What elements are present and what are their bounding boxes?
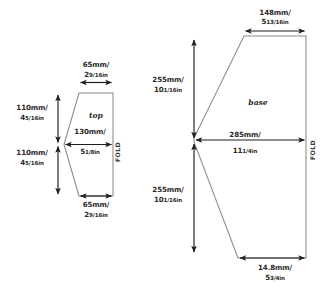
dim-top-mid-width-inch: 51/8in xyxy=(80,147,100,156)
dim-top-upper-left-inch: 45/16in xyxy=(20,113,44,122)
fold-label-top: FOLD xyxy=(114,142,121,162)
dim-base-mid-width-mm: 285mm/ xyxy=(229,130,261,139)
dim-top-top-width-inch: 29/16in xyxy=(84,70,108,79)
dim-base-mid-width-inch: 111/4in xyxy=(233,146,258,155)
dim-top-upper-left-mm: 110mm/ xyxy=(16,103,48,112)
dim-top-lower-left-inch: 45/16in xyxy=(20,158,44,167)
piece-base-outline xyxy=(194,36,306,258)
dim-top-bottom-width-inch: 29/16in xyxy=(84,210,108,219)
dim-top-lower-left-mm: 110mm/ xyxy=(16,148,48,157)
dim-top-mid-width-mm: 130mm/ xyxy=(74,127,106,136)
dim-base-lower-left-inch: 101/16in xyxy=(154,195,182,204)
dim-base-top-width-mm: 148mm/ xyxy=(259,8,291,17)
dim-base-bottom-width-mm: 14.8mm/ xyxy=(258,263,292,272)
fold-label-base: FOLD xyxy=(309,140,316,160)
piece-label-top: top xyxy=(89,111,104,120)
dim-base-lower-left-mm: 255mm/ xyxy=(152,185,184,194)
dim-base-bottom-width-inch: 53/4in xyxy=(265,273,285,282)
pattern-diagram-canvas: 65mm/ 29/16in 110mm/ 45/16in 130mm/ 51/8… xyxy=(0,0,333,297)
dim-base-upper-left-inch: 101/16in xyxy=(154,85,182,94)
dim-top-bottom-width-mm: 65mm/ xyxy=(83,200,110,209)
dim-top-top-width-mm: 65mm/ xyxy=(83,60,110,69)
piece-label-base: base xyxy=(248,98,268,107)
dim-base-top-width-inch: 513/16in xyxy=(261,17,288,26)
dim-base-upper-left-mm: 255mm/ xyxy=(152,75,184,84)
